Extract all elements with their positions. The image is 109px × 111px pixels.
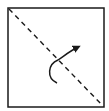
fold-diagram — [0, 0, 109, 111]
